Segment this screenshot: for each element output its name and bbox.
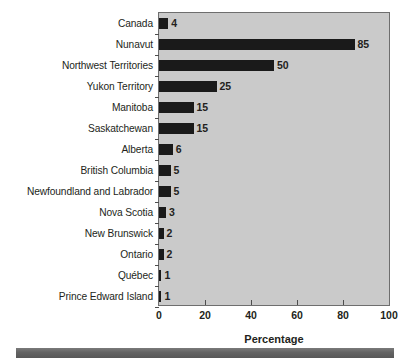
category-label: Alberta — [0, 144, 153, 155]
y-axis-tick — [155, 223, 159, 224]
bar-value-label: 5 — [174, 165, 180, 176]
category-label: British Columbia — [0, 165, 153, 176]
footer-rule — [16, 348, 394, 358]
y-axis-tick — [155, 139, 159, 140]
bar — [159, 18, 168, 29]
x-axis-tick-labels: 020406080100 — [0, 309, 411, 323]
bar-value-label: 2 — [167, 249, 173, 260]
y-axis-tick — [155, 286, 159, 287]
category-label: Ontario — [0, 249, 153, 260]
x-axis-tick-label: 100 — [380, 309, 398, 321]
bar — [159, 165, 171, 176]
category-label: Québec — [0, 270, 153, 281]
plot-area: 4855025151565532211 — [158, 12, 390, 306]
bar — [159, 60, 274, 71]
x-axis-tick-label: 20 — [199, 309, 211, 321]
bar-value-label: 50 — [277, 60, 289, 71]
bar-chart-figure: CanadaNunavutNorthwest TerritoriesYukon … — [0, 0, 411, 364]
x-axis-tick-label: 80 — [337, 309, 349, 321]
bar — [159, 186, 171, 197]
x-axis-tick-label: 40 — [245, 309, 257, 321]
plot-inner: 4855025151565532211 — [159, 13, 389, 305]
y-axis-tick — [155, 181, 159, 182]
x-axis-tick — [205, 300, 206, 305]
y-axis-tick — [155, 307, 159, 308]
y-axis-tick — [155, 118, 159, 119]
bar-value-label: 15 — [197, 102, 209, 113]
bar-value-label: 3 — [169, 207, 175, 218]
y-axis-tick — [155, 34, 159, 35]
bar-value-label: 4 — [171, 18, 177, 29]
category-label: New Brunswick — [0, 228, 153, 239]
category-label: Yukon Territory — [0, 81, 153, 92]
category-label: Northwest Territories — [0, 60, 153, 71]
bar — [159, 270, 161, 281]
category-label: Nunavut — [0, 39, 153, 50]
bar-value-label: 2 — [167, 228, 173, 239]
x-axis-tick-label: 60 — [291, 309, 303, 321]
bar — [159, 81, 217, 92]
y-axis-tick — [155, 202, 159, 203]
x-axis-tick — [251, 300, 252, 305]
bar — [159, 249, 164, 260]
category-label: Newfoundland and Labrador — [0, 186, 153, 197]
category-label: Prince Edward Island — [0, 291, 153, 302]
bar-value-label: 25 — [220, 81, 232, 92]
bar — [159, 291, 161, 302]
bar-value-label: 6 — [176, 144, 182, 155]
y-axis-tick — [155, 97, 159, 98]
bar-value-label: 1 — [164, 270, 170, 281]
bar — [159, 123, 194, 134]
x-axis-tick-label: 0 — [156, 309, 162, 321]
bar — [159, 39, 355, 50]
category-label: Manitoba — [0, 102, 153, 113]
y-axis-tick — [155, 265, 159, 266]
bar-value-label: 15 — [197, 123, 209, 134]
x-axis-tick — [343, 300, 344, 305]
bar — [159, 228, 164, 239]
category-axis-labels: CanadaNunavutNorthwest TerritoriesYukon … — [0, 12, 153, 306]
y-axis-tick — [155, 160, 159, 161]
bar-value-label: 1 — [164, 291, 170, 302]
x-axis-title: Percentage — [158, 333, 390, 346]
y-axis-tick — [155, 55, 159, 56]
x-axis-tick — [297, 300, 298, 305]
category-label: Canada — [0, 18, 153, 29]
y-axis-tick — [155, 244, 159, 245]
bar-value-label: 5 — [174, 186, 180, 197]
bar — [159, 102, 194, 113]
bar — [159, 144, 173, 155]
category-label: Saskatchewan — [0, 123, 153, 134]
y-axis-tick — [155, 76, 159, 77]
bar — [159, 207, 166, 218]
category-label: Nova Scotia — [0, 207, 153, 218]
bar-value-label: 85 — [358, 39, 370, 50]
